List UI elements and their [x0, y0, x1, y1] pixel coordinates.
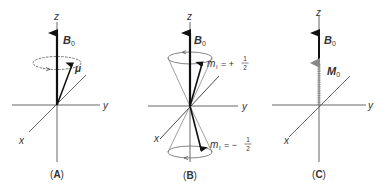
svg-text:1: 1 — [243, 55, 247, 62]
svg-text:= −: = − — [224, 140, 237, 150]
panel-a: z y x B0 μ (A) — [12, 11, 109, 180]
x-axis-label: x — [18, 135, 25, 146]
panel-a-caption: (A) — [50, 169, 64, 180]
z-axis-label: z — [53, 11, 59, 22]
svg-text:m: m — [210, 139, 218, 150]
x-axis-label: x — [153, 133, 160, 144]
spin-down-state-label: m I = − 1 2 — [210, 136, 252, 152]
svg-text:2: 2 — [243, 64, 247, 71]
y-axis-label: y — [367, 100, 374, 111]
x-axis-label: x — [283, 135, 290, 146]
lower-cone-edge-left — [168, 106, 190, 152]
spin-up-state-label: m I = + 1 2 — [207, 55, 249, 71]
panel-c-caption: (C) — [312, 169, 326, 180]
panel-b-caption: (B) — [183, 170, 197, 181]
y-axis-label: y — [241, 101, 248, 112]
m0-label: M0 — [327, 65, 340, 78]
b0-label: B0 — [63, 34, 75, 47]
lower-cone-edge-right — [190, 106, 212, 152]
b0-label: B0 — [324, 34, 336, 47]
b0-label: B0 — [194, 34, 206, 47]
panel-c: z y x B0 M0 (C) — [272, 7, 374, 180]
panel-b: z y x B0 m I = + 1 2 m I = − 1 2 (B) — [148, 11, 252, 181]
y-axis-label: y — [102, 100, 109, 111]
z-axis-label: z — [315, 7, 321, 18]
svg-text:I: I — [216, 64, 218, 70]
mu-arrow — [57, 65, 72, 105]
svg-text:I: I — [219, 145, 221, 151]
svg-text:= +: = + — [221, 59, 234, 69]
svg-text:m: m — [207, 58, 215, 69]
upper-cone-edge-left — [168, 58, 190, 106]
z-axis-label: z — [186, 11, 192, 22]
svg-text:2: 2 — [246, 145, 250, 152]
mu-label: μ — [74, 63, 81, 74]
spin-down-arrow — [190, 106, 201, 149]
spin-up-arrow — [190, 64, 202, 106]
nmr-spin-diagram: z y x B0 μ (A) z y x B0 m I — [0, 0, 384, 186]
svg-text:1: 1 — [246, 136, 250, 143]
